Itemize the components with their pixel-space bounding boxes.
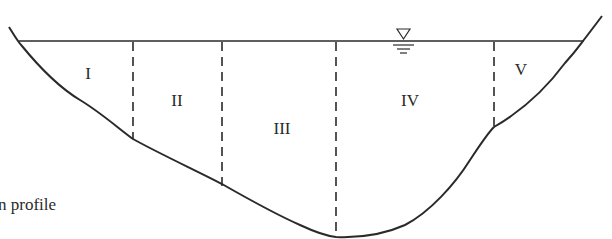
channel-bed-profile [9, 16, 602, 237]
subsection-label-4: IV [401, 91, 420, 110]
caption-fragment: n profile [0, 195, 56, 214]
subsection-label-3: III [274, 119, 291, 138]
subsection-label-2: II [171, 91, 183, 110]
subsection-label-1: I [85, 64, 91, 83]
channel-cross-section-diagram: I II III IV V n profile [0, 0, 612, 239]
subsection-label-5: V [515, 60, 528, 79]
